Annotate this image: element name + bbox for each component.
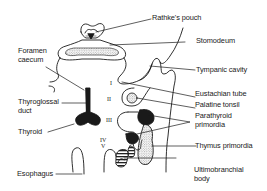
label-rathkes-pouch: Rathke's pouch — [152, 14, 201, 22]
pouch-numeral-iii: III — [106, 117, 112, 123]
pouch-ii-shape — [122, 88, 150, 106]
rathkes-pouch-shape — [81, 24, 104, 39]
label-thymus-primordia: Thymus primordia — [195, 142, 253, 150]
stomodeum-shape — [58, 40, 126, 60]
foramen-caecum-shape — [49, 58, 60, 92]
thyroid-shape — [76, 88, 101, 125]
label-thyroid: Thyroid — [18, 128, 42, 136]
label-esophagus: Esophagus — [17, 170, 53, 178]
label-tympanic-cavity: Tympanic cavity — [196, 66, 247, 74]
label-palatine-tonsil: Palatine tonsil — [195, 101, 240, 109]
pouch-numeral-i: I — [110, 80, 112, 86]
esophagus-shape — [72, 148, 84, 174]
pouch-numeral-v: V — [101, 143, 105, 149]
label-parathyroid-line2: primordia — [195, 121, 225, 129]
pouch-numeral-ii: II — [107, 96, 111, 102]
label-eustachian-tube: Eustachian tube — [195, 90, 247, 98]
label-foramen-caecum-line2: caecum — [18, 56, 43, 64]
label-stomodeum: Stomodeum — [196, 37, 235, 45]
thymus-shape — [138, 124, 153, 165]
label-thyroglossal-duct-line2: duct — [18, 107, 32, 115]
label-ultimobranchial-line2: body — [194, 175, 210, 183]
